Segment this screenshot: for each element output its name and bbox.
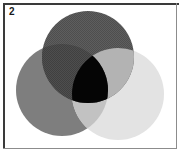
venn-diagram — [6, 6, 175, 147]
figure-panel: 2 — [0, 0, 188, 163]
frame-border-top — [3, 3, 179, 5]
frame-border-bottom — [3, 148, 177, 149]
frame-border-right — [176, 3, 177, 149]
frame-border-left — [3, 3, 5, 149]
venn-diagram-canvas — [6, 6, 175, 147]
